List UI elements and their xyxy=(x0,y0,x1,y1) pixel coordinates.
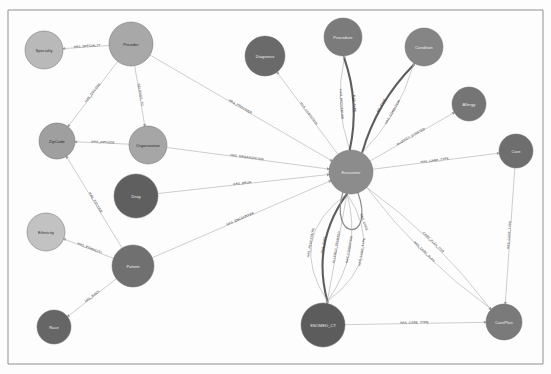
node-layer[interactable]: SpecialtyProviderZipCodeOrganizationDrug… xyxy=(25,18,533,347)
node-label: Allergy xyxy=(463,102,476,107)
edge-label: HAS_CONDITION xyxy=(384,99,401,125)
edge-label: HAS_CONDITION xyxy=(345,236,354,264)
node-label: Encounter xyxy=(341,170,361,175)
graph-edge[interactable] xyxy=(367,187,490,307)
node-label: Ethnicity xyxy=(38,230,54,235)
edge-label: HAS_ORGANIZATION xyxy=(230,153,264,161)
edge-label: HAS_ENCOUNTER xyxy=(226,211,255,227)
graph-node-race[interactable]: Race xyxy=(37,310,71,344)
graph-node-condition[interactable]: Condition xyxy=(405,28,443,66)
edge-label: HAS_ZIPCODE xyxy=(84,82,101,103)
edge-label: HAS_CARE_TYPE xyxy=(357,238,366,267)
graph-node-organization[interactable]: Organization xyxy=(129,126,167,164)
graph-edge[interactable] xyxy=(367,187,490,307)
graph-canvas: HAS_SPECIALTYHAS_ZIPCODEBELONGS_TOHAS_PR… xyxy=(0,0,551,374)
graph-node-careplan[interactable]: CarePlan xyxy=(486,304,522,340)
node-label: ZipCode xyxy=(49,139,65,144)
node-label: Drug xyxy=(131,194,140,199)
graph-node-diagnosis[interactable]: Diagnosis xyxy=(245,36,285,76)
graph-node-procedure[interactable]: Procedure xyxy=(324,18,362,56)
edge-label: HAS_PROCEDURE xyxy=(306,228,315,258)
graph-node-specialty[interactable]: Specialty xyxy=(25,31,63,69)
graph-node-provider[interactable]: Provider xyxy=(109,22,153,66)
edge-label: HAS_PROCEDURE xyxy=(339,89,345,119)
edge-label: HAS_TYPE xyxy=(320,236,327,254)
node-label: Specialty xyxy=(35,48,52,53)
edge-label: HAS_RACE xyxy=(84,289,101,303)
node-label: CarePlan xyxy=(495,320,512,325)
edge-label: HAS_ZIPCODE xyxy=(88,192,104,214)
graph-node-zipcode[interactable]: ZipCode xyxy=(39,123,75,159)
edge-label: OF_TYPE xyxy=(376,98,387,113)
edge-label: ALLERGY_STARTED xyxy=(396,126,427,146)
node-label: Patient xyxy=(126,264,140,269)
edge-label: ALLERGY_STARTED xyxy=(331,230,341,263)
edge-label: HAS_SPECIALTY xyxy=(74,43,101,49)
edge-label: BELONGS_TO xyxy=(137,83,145,106)
graph-node-snomed_ct[interactable]: SNOMED_CT xyxy=(301,303,345,347)
edge-label: HAS_CARE_TYPE xyxy=(506,221,512,250)
node-label: Condition xyxy=(415,45,433,50)
graph-edge[interactable] xyxy=(327,194,363,302)
node-label: SNOMED_CT xyxy=(310,323,336,328)
graph-node-drug[interactable]: Drug xyxy=(114,174,158,218)
graph-node-allergy[interactable]: Allergy xyxy=(452,87,486,121)
graph-node-encounter[interactable]: Encounter xyxy=(329,150,373,194)
network-graph[interactable]: HAS_SPECIALTYHAS_ZIPCODEBELONGS_TOHAS_PR… xyxy=(0,0,551,374)
edge-label: HAS_DRUG xyxy=(233,180,252,186)
edge-label: HAS_CARE_TYPE xyxy=(420,157,449,165)
edge-label: HAS_ETHNICITY xyxy=(77,241,103,254)
edge-label: HAS_CONDITION xyxy=(299,101,319,125)
node-label: Race xyxy=(49,325,59,330)
graph-edge[interactable] xyxy=(311,194,347,302)
edge-label: HAS_PROVIDER xyxy=(228,98,253,115)
node-label: Care xyxy=(511,149,521,154)
edge-label: HAS_ZIPCODE xyxy=(91,140,115,145)
node-label: Provider xyxy=(123,42,139,47)
graph-node-patient[interactable]: Patient xyxy=(112,245,154,287)
node-label: Organization xyxy=(136,143,160,148)
graph-node-ethnicity[interactable]: Ethnicity xyxy=(27,213,65,251)
node-label: Diagnosis xyxy=(256,54,274,59)
graph-node-care[interactable]: Care xyxy=(499,134,533,168)
edge-label: HAS_CARE_TYPE xyxy=(400,320,428,324)
node-label: Procedure xyxy=(333,35,353,40)
